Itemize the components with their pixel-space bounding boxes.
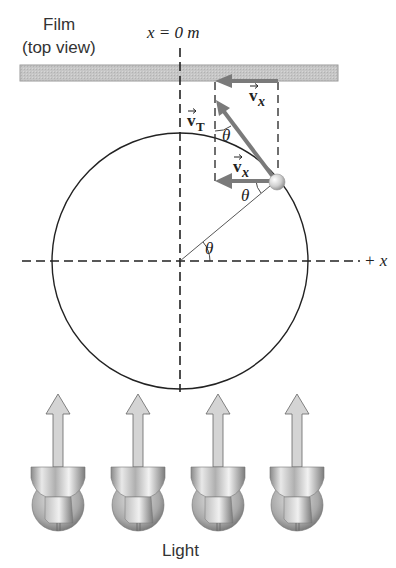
- light-arrow-icon: [46, 394, 70, 467]
- film-subtitle: (top view): [22, 38, 96, 57]
- light-source-1: [31, 394, 85, 531]
- plus-x-label: + x: [364, 251, 388, 270]
- origin-label-text: x = 0 m: [146, 23, 200, 42]
- light-source-4: [270, 394, 324, 531]
- theta-ball-label: θ: [241, 186, 249, 205]
- film-strip: [20, 65, 338, 81]
- vx-label-film-sub: x: [257, 94, 265, 109]
- radius-line: [180, 181, 276, 261]
- light-source-3: [191, 394, 245, 531]
- lamp-cup: [191, 467, 245, 497]
- lamp-inner: [125, 497, 153, 523]
- lamp-cup: [31, 467, 85, 497]
- film-label: Film: [43, 15, 75, 34]
- vx-label-film-main: v: [249, 86, 258, 105]
- lamp-inner: [284, 497, 312, 523]
- light-source-2: [111, 394, 165, 531]
- vx-label-ball-main: v: [233, 157, 242, 176]
- uniform-circular-motion-diagram: Film (top view) x = 0 m + x θ θ θ v T v: [0, 0, 396, 568]
- light-arrow-icon: [126, 394, 150, 467]
- origin-label: x = 0 m: [146, 23, 200, 42]
- vx-label-film: v x: [249, 84, 265, 110]
- light-arrow-icon: [285, 394, 309, 467]
- vT-label: v T: [187, 109, 205, 135]
- vx-arrow-ball-head: [215, 173, 232, 189]
- theta-center-label: θ: [205, 239, 213, 258]
- vT-label-sub: T: [196, 119, 205, 134]
- theta-top-label: θ: [222, 126, 230, 145]
- ball: [269, 174, 285, 190]
- light-arrow-icon: [206, 394, 230, 467]
- vT-label-main: v: [187, 111, 196, 130]
- vx-label-ball: v x: [233, 155, 249, 181]
- light-label: Light: [162, 541, 199, 560]
- lamp-inner: [45, 497, 73, 523]
- plus-x-label-text: + x: [364, 251, 388, 270]
- lamp-cup: [111, 467, 165, 497]
- vx-label-ball-sub: x: [241, 165, 249, 180]
- lamp-cup: [270, 467, 324, 497]
- lamp-inner: [205, 497, 233, 523]
